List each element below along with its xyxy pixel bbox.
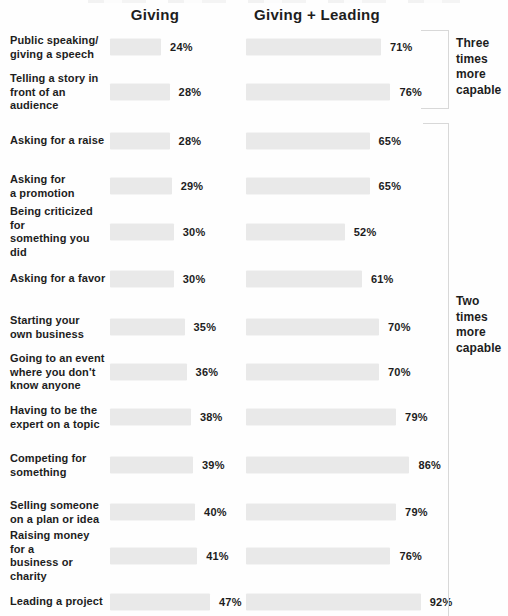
giving-leading-value: 70%: [388, 321, 411, 333]
giving-bar: [110, 319, 185, 336]
annotation-three-times-more-capable: Three times more capable: [456, 36, 508, 98]
giving-bar: [110, 84, 170, 101]
bracket-three-times: [421, 30, 449, 109]
giving-bar: [110, 409, 191, 426]
giving-bar: [110, 364, 187, 381]
giving-leading-bar: [246, 504, 396, 521]
row-label: Asking for a promotion: [10, 173, 107, 200]
giving-value: 47%: [219, 596, 242, 608]
giving-bar: [110, 224, 174, 241]
giving-bar: [110, 457, 193, 474]
row-label: Telling a story in front of an audience: [10, 72, 107, 113]
giving-value: 30%: [183, 226, 206, 238]
column-header-giving: Giving: [110, 6, 200, 23]
annotation-two-times-more-capable: Two times more capable: [456, 294, 508, 356]
giving-leading-bar: [246, 319, 379, 336]
giving-value: 38%: [200, 411, 223, 423]
giving-value: 29%: [181, 180, 204, 192]
giving-leading-bar: [246, 548, 390, 565]
giving-bar: [110, 548, 197, 565]
giving-leading-value: 65%: [379, 180, 402, 192]
giving-leading-value: 65%: [379, 135, 402, 147]
giving-bar: [110, 504, 195, 521]
giving-value: 39%: [202, 459, 225, 471]
giving-value: 30%: [183, 273, 206, 285]
row-label: Public speaking/ giving a speech: [10, 34, 107, 61]
giving-leading-bar: [246, 594, 421, 611]
row-label: Having to be the expert on a topic: [10, 404, 107, 431]
giving-leading-bar: [246, 133, 370, 150]
chart-canvas: Giving Giving + Leading Public speaking/…: [0, 0, 508, 616]
giving-bar: [110, 178, 172, 195]
giving-value: 36%: [196, 366, 219, 378]
row-label: Selling someone on a plan or idea: [10, 499, 107, 526]
giving-leading-value: 70%: [388, 366, 411, 378]
row-label: Going to an event where you don't know a…: [10, 352, 107, 393]
row-label: Leading a project: [10, 595, 107, 609]
row-label: Competing for something: [10, 452, 107, 479]
giving-leading-bar: [246, 271, 362, 288]
giving-value: 28%: [179, 86, 202, 98]
giving-leading-value: 71%: [390, 41, 413, 53]
giving-leading-bar: [246, 224, 345, 241]
giving-leading-bar: [246, 409, 396, 426]
giving-bar: [110, 271, 174, 288]
row-label: Asking for a favor: [10, 272, 107, 286]
giving-value: 24%: [170, 41, 193, 53]
giving-bar: [110, 39, 161, 56]
column-header-giving-leading: Giving + Leading: [246, 6, 388, 23]
row-label: Being criticized for something you did: [10, 205, 107, 259]
giving-value: 41%: [206, 550, 229, 562]
giving-leading-bar: [246, 457, 409, 474]
giving-leading-bar: [246, 364, 379, 381]
bracket-two-times: [423, 123, 449, 616]
giving-leading-bar: [246, 178, 370, 195]
giving-bar: [110, 594, 210, 611]
scan-edge-artifact: [88, 0, 460, 3]
giving-leading-bar: [246, 84, 390, 101]
giving-value: 35%: [194, 321, 217, 333]
giving-bar: [110, 133, 170, 150]
row-label: Raising money for a business or charity: [10, 529, 107, 583]
giving-value: 28%: [179, 135, 202, 147]
giving-leading-value: 76%: [399, 550, 422, 562]
row-label: Asking for a raise: [10, 134, 107, 148]
row-label: Starting your own business: [10, 314, 107, 341]
giving-leading-value: 52%: [354, 226, 377, 238]
giving-value: 40%: [204, 506, 227, 518]
giving-leading-value: 76%: [399, 86, 422, 98]
giving-leading-bar: [246, 39, 381, 56]
giving-leading-value: 61%: [371, 273, 394, 285]
